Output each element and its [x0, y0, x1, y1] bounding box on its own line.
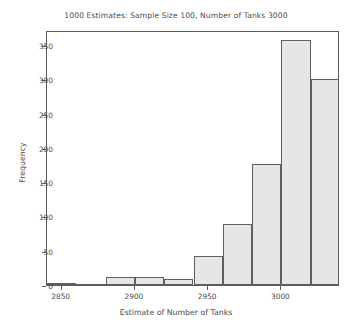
x-tick-label: 3000 — [271, 292, 290, 301]
x-tick-label: 2950 — [198, 292, 217, 301]
histogram-bar — [194, 256, 223, 285]
x-tick-mark — [207, 286, 208, 290]
y-tick-mark — [42, 80, 46, 81]
x-tick-mark — [134, 286, 135, 290]
bar-series — [47, 32, 338, 285]
x-tick-label: 2900 — [124, 292, 143, 301]
histogram-bar — [281, 40, 310, 285]
x-tick-label: 2850 — [51, 292, 70, 301]
histogram-bar — [106, 277, 135, 285]
y-tick-label: 50 — [13, 247, 53, 256]
y-tick-label: 200 — [13, 144, 53, 153]
chart-title: 1000 Estimates: Sample Size 100, Number … — [0, 11, 352, 20]
histogram-bar — [135, 277, 164, 285]
histogram-figure: 1000 Estimates: Sample Size 100, Number … — [0, 0, 352, 334]
x-tick-mark — [280, 286, 281, 290]
y-tick-mark — [42, 183, 46, 184]
x-axis-label: Estimate of Number of Tanks — [0, 308, 352, 317]
y-tick-mark — [42, 46, 46, 47]
histogram-bar — [76, 284, 105, 285]
histogram-bar — [252, 164, 281, 285]
histogram-bar — [311, 79, 339, 285]
y-tick-mark — [42, 286, 46, 287]
y-tick-mark — [42, 217, 46, 218]
histogram-bar — [164, 279, 193, 285]
y-tick-label: 350 — [13, 42, 53, 51]
y-tick-mark — [42, 252, 46, 253]
histogram-bar — [223, 224, 252, 285]
plot-area — [46, 31, 339, 286]
x-tick-mark — [61, 286, 62, 290]
y-tick-mark — [42, 149, 46, 150]
y-tick-label: 300 — [13, 76, 53, 85]
y-tick-label: 0 — [13, 282, 53, 291]
y-axis-label: Frequency — [18, 103, 27, 223]
y-tick-label: 100 — [13, 213, 53, 222]
y-tick-label: 150 — [13, 179, 53, 188]
y-tick-label: 250 — [13, 110, 53, 119]
y-tick-mark — [42, 115, 46, 116]
